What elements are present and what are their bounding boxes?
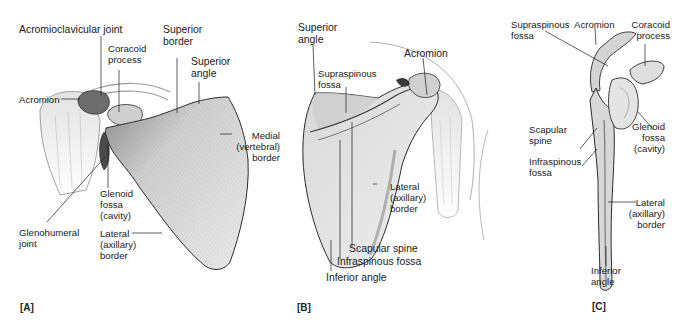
label-coracoid-process: Coracoid process [108, 43, 146, 65]
label-superior-angle-b: Superior angle [298, 22, 337, 46]
label-infraspinous-fossa-c: Infraspinous fossa [529, 156, 581, 178]
label-coracoid-process-c: Coracoid process [625, 19, 670, 41]
label-glenoid-fossa-c: Glenoid fossa (cavity) [620, 121, 665, 154]
label-inferior-angle-c: Inferior angle [591, 265, 621, 287]
label-infraspinous-fossa-b: Infraspinous fossa [337, 256, 421, 268]
label-medial-border: Medial (vertebral) border [228, 130, 280, 163]
panel-tag-a: [A] [20, 302, 34, 313]
label-acromion-b: Acromion [404, 48, 448, 60]
label-lateral-border-c: Lateral (axillary) border [618, 197, 665, 230]
panel-tag-c: [C] [592, 301, 606, 312]
label-superior-border: Superior border [163, 24, 202, 48]
label-lateral-border-b: Lateral (axillary) border [390, 181, 426, 214]
label-scapular-spine-b: Scapular spine [349, 243, 418, 255]
panel-tag-b: [B] [297, 302, 311, 313]
label-scapular-spine-c: Scapular spine [529, 124, 567, 146]
label-glenoid-fossa-a: Glenoid fossa (cavity) [100, 188, 133, 221]
label-acromioclavicular-joint: Acromioclavicular joint [19, 24, 122, 36]
scapula-diagram: Acromioclavicular joint Coracoid process… [0, 0, 683, 327]
label-supraspinous-fossa-c: Supraspinous fossa [511, 19, 570, 41]
label-acromion-a: Acromion [19, 94, 60, 105]
label-inferior-angle-b: Inferior angle [326, 272, 387, 284]
label-superior-angle-a: Superior angle [191, 56, 230, 80]
label-lateral-border-a: Lateral (axillary) border [100, 228, 136, 261]
label-acromion-c: Acromion [574, 19, 615, 30]
label-glenohumeral-joint: Glenohumeral joint [19, 227, 79, 249]
label-supraspinous-fossa-b: Supraspinous fossa [318, 68, 377, 90]
